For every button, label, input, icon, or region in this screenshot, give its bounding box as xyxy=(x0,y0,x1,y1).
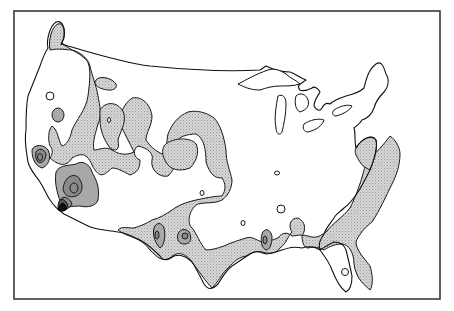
us-contour-map-svg xyxy=(0,0,454,311)
contour-map xyxy=(0,0,454,311)
contour-level-1 xyxy=(49,24,400,290)
great-lakes xyxy=(238,69,352,134)
